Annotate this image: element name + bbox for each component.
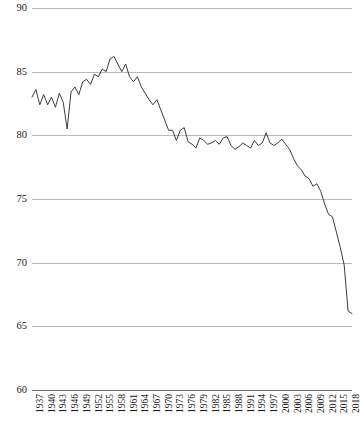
x-tick-label-1979: 1979 [200,394,210,413]
x-tick-label-2000: 2000 [282,394,292,413]
x-tick-label-2003: 2003 [294,394,304,413]
x-tick-label-1976: 1976 [188,394,198,413]
x-tick-label-1961: 1961 [130,394,140,413]
y-tick-label-65: 65 [0,321,27,332]
plot-area [32,8,352,390]
y-tick-label-60: 60 [0,385,27,396]
x-tick-label-1982: 1982 [212,394,222,413]
x-tick-label-1952: 1952 [95,394,105,413]
line-chart: 60657075808590 1937194019431946194919521… [0,0,360,433]
x-tick-label-2009: 2009 [317,394,327,413]
x-tick-label-1937: 1937 [36,394,46,413]
x-tick-label-1958: 1958 [118,394,128,413]
y-tick-label-70: 70 [0,258,27,269]
y-tick-label-90: 90 [0,3,27,14]
x-tick-label-1973: 1973 [176,394,186,413]
x-tick-label-1949: 1949 [83,394,93,413]
x-tick-label-2018: 2018 [352,394,360,413]
x-tick-label-1988: 1988 [235,394,245,413]
x-tick-label-1943: 1943 [59,394,69,413]
x-tick-label-2015: 2015 [340,394,350,413]
y-tick-label-80: 80 [0,130,27,141]
x-tick-label-1955: 1955 [106,394,116,413]
y-tick-label-75: 75 [0,194,27,205]
x-tick-label-2006: 2006 [305,394,315,413]
x-tick-label-1997: 1997 [270,394,280,413]
x-tick-label-1991: 1991 [247,394,257,413]
x-tick-label-1967: 1967 [153,394,163,413]
series-path [32,56,352,313]
x-tick-label-1946: 1946 [71,394,81,413]
x-tick-label-1970: 1970 [165,394,175,413]
x-tick-label-1994: 1994 [258,394,268,413]
x-tick-label-1964: 1964 [141,394,151,413]
x-tick-label-2012: 2012 [329,394,339,413]
x-tick-label-1985: 1985 [223,394,233,413]
gridline-60 [32,390,352,391]
y-tick-label-85: 85 [0,67,27,78]
x-tick-label-1940: 1940 [48,394,58,413]
data-series-line [32,8,352,390]
